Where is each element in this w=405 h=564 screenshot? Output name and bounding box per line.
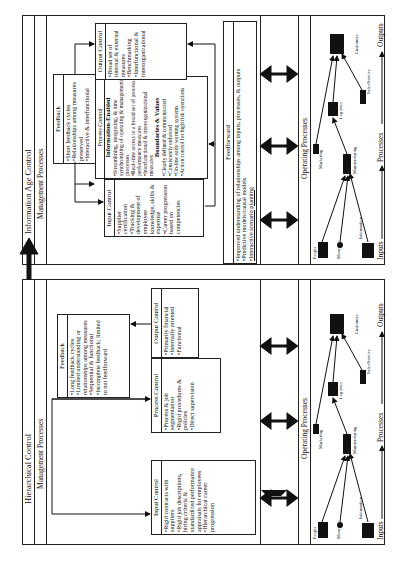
output-control-box: Output Control Primarily financial Inter…: [151, 288, 199, 358]
flow-outputs: Outputs: [376, 303, 385, 327]
customers-icon: [330, 34, 344, 54]
operating-processes-label: Operating Processes: [300, 118, 309, 179]
node-information: Information: [358, 217, 363, 239]
node-customers: Customers: [354, 314, 359, 334]
management-processes-label: Management Processes: [36, 419, 45, 489]
information-icon: [362, 523, 374, 538]
panel-title: Information Age Control: [23, 149, 33, 234]
feedforward-box: Feedforward Improved understanding of re…: [223, 21, 257, 264]
input-control-box: Input Control Rigid contracts with suppl…: [151, 460, 256, 535]
node-people: People: [312, 526, 317, 539]
node-sales-service: Sales/Service: [366, 349, 371, 374]
flow-outputs: Outputs: [376, 23, 385, 47]
figure-stage: Hierarchical Control Management Processe…: [0, 0, 405, 564]
flow-inputs: Inputs: [376, 521, 385, 540]
marketing-icon: [313, 144, 319, 154]
feedback-box: Feedback Long feedback cycles Limited un…: [57, 314, 130, 398]
logistics-icon: [328, 382, 338, 396]
people-icon: [318, 522, 328, 538]
process-control-box: Process Control Process & job segmentati…: [151, 358, 221, 433]
money-icon: [337, 522, 343, 528]
logistics-icon: [328, 102, 338, 116]
input-control-box: Input Control Supplier certification Tra…: [104, 179, 204, 237]
node-logistics: Logistics: [338, 382, 343, 399]
node-information: Information: [358, 497, 363, 519]
flow-processes: Processes: [376, 133, 385, 162]
node-sales-service: Sales/Service: [366, 69, 371, 94]
feedback-box: Feedback Short feedback cycles Relations…: [53, 74, 97, 164]
node-logistics: Logistics: [338, 102, 343, 119]
customers-icon: [330, 314, 344, 334]
money-icon: [337, 242, 343, 248]
node-customers: Customers: [354, 34, 359, 54]
management-processes-label: Management Processes: [36, 149, 45, 219]
node-manufacturing: Manufacturing: [352, 427, 357, 454]
sales-service-icon: [360, 90, 366, 104]
operating-processes-label: Operating Processes: [300, 398, 309, 459]
panel-title: Hierarchical Control: [23, 434, 33, 504]
information-icon: [362, 243, 374, 258]
node-people: People: [312, 246, 317, 259]
node-manufacturing: Manufacturing: [352, 147, 357, 174]
factory-icon: [343, 434, 351, 454]
people-icon: [318, 242, 328, 258]
flow-inputs: Inputs: [376, 241, 385, 260]
process-control-box: Process Control Information-Enabled Stre…: [95, 76, 208, 179]
factory-icon: [343, 154, 351, 174]
sales-service-icon: [360, 370, 366, 384]
marketing-icon: [313, 424, 319, 434]
output-control-box: Output Control Broad set of internal & e…: [95, 23, 187, 80]
flow-processes: Processes: [376, 413, 385, 442]
